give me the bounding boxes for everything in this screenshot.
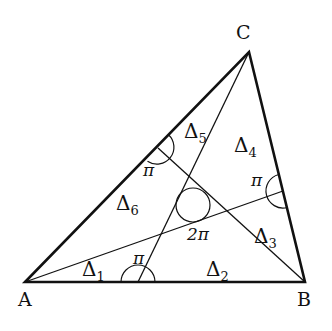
region-label-4: Δ4 xyxy=(234,133,257,160)
angle-label-pi-bc: π xyxy=(250,170,263,190)
region-label-2: Δ2 xyxy=(206,257,229,284)
angle-label-2pi: 2π xyxy=(186,224,210,244)
angle-label-pi-ab: π xyxy=(132,248,145,268)
region-label-1: Δ1 xyxy=(82,257,105,284)
line-a-to-bc xyxy=(25,191,283,282)
vertex-label-b: B xyxy=(297,288,311,310)
region-label-3: Δ3 xyxy=(254,224,277,251)
vertex-label-a: A xyxy=(17,288,32,310)
vertex-label-c: C xyxy=(236,21,251,43)
line-c-to-ab xyxy=(138,52,249,282)
full-angle-circle xyxy=(176,188,210,222)
region-label-6: Δ6 xyxy=(116,191,139,218)
line-b-to-ca xyxy=(158,148,305,282)
triangle-diagram: A B C Δ1 Δ2 Δ3 Δ4 Δ5 Δ6 2π π π π xyxy=(0,0,332,331)
angle-label-pi-ca: π xyxy=(142,160,155,180)
region-label-5: Δ5 xyxy=(184,119,207,146)
